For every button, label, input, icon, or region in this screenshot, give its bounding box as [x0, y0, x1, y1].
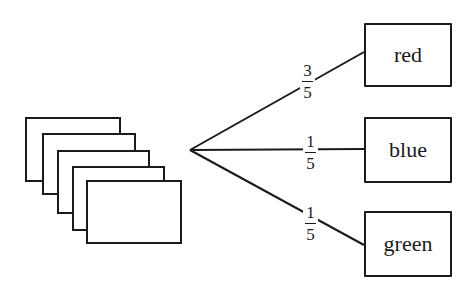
outcome-box-red: red [364, 23, 452, 87]
outcome-label: blue [389, 137, 427, 163]
outcome-label: green [384, 231, 433, 257]
denominator: 5 [306, 155, 315, 172]
probability-red: 3 5 [300, 62, 315, 101]
fraction-bar [305, 223, 316, 224]
denominator: 5 [306, 226, 315, 243]
branch-line-red [190, 52, 364, 150]
outcome-label: red [394, 42, 422, 68]
fraction-bar [302, 81, 313, 82]
denominator: 5 [303, 84, 312, 101]
fraction-bar [305, 152, 316, 153]
probability-green: 1 5 [303, 204, 318, 243]
outcome-box-green: green [364, 211, 452, 277]
numerator: 1 [306, 204, 315, 221]
numerator: 1 [306, 133, 315, 150]
branch-line-green [190, 150, 364, 245]
branch-line-blue [190, 149, 364, 150]
outcome-box-blue: blue [364, 117, 452, 183]
probability-blue: 1 5 [303, 133, 318, 172]
card-5 [86, 180, 182, 244]
numerator: 3 [303, 62, 312, 79]
